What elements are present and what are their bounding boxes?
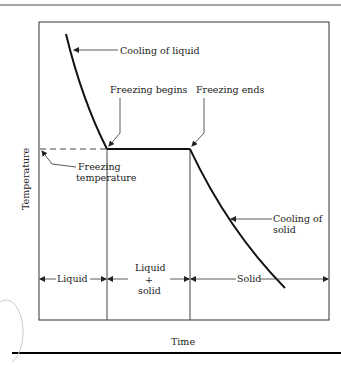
phase-solid-label: Solid [237,273,261,284]
phase-mixed-label-2: + [145,274,153,285]
freezing-begins-leader [109,98,120,146]
decorative-arc [0,300,23,362]
freezing-ends-label: Freezing ends [196,84,264,95]
cooling-liquid-label: Cooling of liquid [120,45,200,56]
x-axis-label: Time [171,336,195,347]
freezing-temperature-label-1: Freezing [78,161,121,172]
freezing-begins-label: Freezing begins [110,84,188,95]
phase-liquid-label: Liquid [57,273,88,284]
freezing-ends-leader [192,98,204,146]
freezing-temperature-leader [42,151,76,167]
cooling-solid-label-2: solid [273,224,296,235]
y-axis-label: Temperature [20,147,31,210]
phase-mixed-label-1: Liquid [135,262,166,273]
solid-cooling-curve [190,149,285,288]
liquid-cooling-curve [66,34,107,149]
cooling-curve-diagram: Cooling of liquid Freezing begins Freezi… [0,0,341,366]
cooling-solid-label-1: Cooling of [273,213,324,224]
phase-mixed-label-3: solid [138,285,161,296]
freezing-temperature-label-2: temperature [76,172,137,183]
